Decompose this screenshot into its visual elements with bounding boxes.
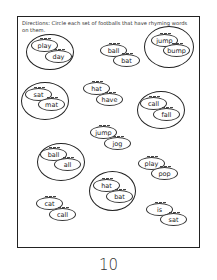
football-bottom[interactable]: jog: [104, 137, 131, 150]
football-bottom[interactable]: all: [54, 158, 81, 171]
football-bottom[interactable]: call: [49, 208, 76, 221]
football-bottom[interactable]: bat: [106, 190, 133, 203]
football-bottom[interactable]: have: [96, 93, 123, 106]
football-bottom[interactable]: day: [45, 50, 72, 63]
football-bottom[interactable]: bump: [163, 44, 190, 57]
football-bottom[interactable]: bat: [113, 54, 140, 67]
football-bottom[interactable]: fall: [153, 108, 180, 121]
football-bottom[interactable]: pop: [151, 167, 178, 180]
football-bottom[interactable]: mat: [38, 98, 65, 111]
football-bottom[interactable]: sat: [160, 213, 187, 226]
page-number: 10: [0, 256, 217, 274]
